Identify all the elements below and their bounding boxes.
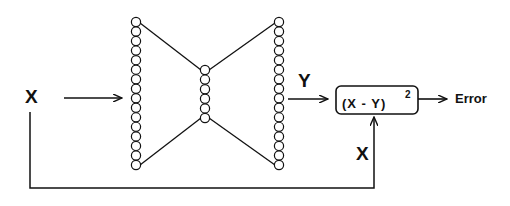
neuron-node — [131, 151, 140, 160]
feedback-label: X — [356, 143, 369, 165]
neuron-node — [274, 151, 283, 160]
neuron-node — [200, 94, 209, 103]
neuron-node — [274, 36, 283, 45]
input-label: X — [25, 86, 38, 108]
input-layer — [131, 17, 140, 169]
error-exponent: 2 — [405, 89, 411, 100]
neuron-node — [131, 56, 140, 65]
error-expression: (X - Y) — [342, 96, 386, 111]
neuron-node — [274, 113, 283, 122]
neuron-node — [131, 46, 140, 55]
output-label: Y — [298, 70, 311, 92]
neuron-node — [274, 132, 283, 141]
neuron-node — [131, 65, 140, 74]
error-label: Error — [455, 91, 487, 106]
neuron-node — [131, 94, 140, 103]
neuron-node — [200, 75, 209, 84]
neuron-node — [131, 141, 140, 150]
autoencoder-diagram — [0, 0, 510, 206]
neuron-node — [131, 36, 140, 45]
neuron-node — [131, 17, 140, 26]
neuron-node — [131, 122, 140, 131]
neuron-node — [200, 85, 209, 94]
neuron-node — [274, 103, 283, 112]
neuron-node — [131, 160, 140, 169]
neuron-node — [274, 141, 283, 150]
neuron-node — [131, 103, 140, 112]
neuron-node — [274, 122, 283, 131]
neuron-node — [274, 160, 283, 169]
neuron-node — [131, 132, 140, 141]
bottleneck-layer — [200, 65, 209, 122]
neuron-node — [131, 84, 140, 93]
neuron-node — [131, 113, 140, 122]
neuron-node — [200, 113, 209, 122]
neuron-node — [274, 17, 283, 26]
neuron-node — [274, 46, 283, 55]
neuron-node — [274, 94, 283, 103]
layer-connections — [140, 23, 275, 165]
neuron-node — [274, 84, 283, 93]
neuron-node — [131, 75, 140, 84]
neuron-node — [274, 27, 283, 36]
neuron-node — [274, 65, 283, 74]
neuron-node — [200, 65, 209, 74]
neuron-node — [200, 104, 209, 113]
neuron-node — [131, 27, 140, 36]
feedback-path — [30, 112, 374, 188]
output-layer — [274, 17, 283, 169]
neuron-node — [274, 56, 283, 65]
neuron-node — [274, 75, 283, 84]
